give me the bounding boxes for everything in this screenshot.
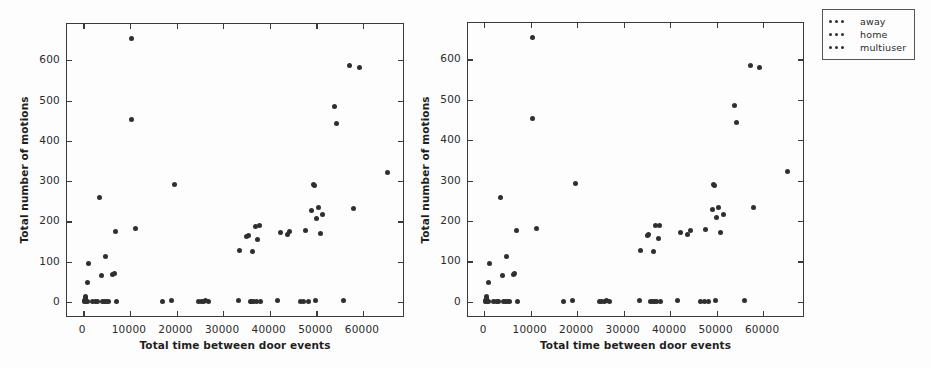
legend-item[interactable]: away <box>829 15 906 28</box>
x-axis-tick <box>83 24 84 29</box>
y-axis-tick <box>468 59 473 60</box>
scatter-point <box>734 120 739 125</box>
scatter-point <box>742 298 747 303</box>
y-axis-tick <box>468 221 473 222</box>
x-axis-tick <box>130 24 131 29</box>
y-axis-tick-label: 0 <box>433 295 461 307</box>
scatter-point <box>237 248 242 253</box>
scatter-point <box>507 299 512 304</box>
legend-marker-dot-icon <box>829 33 855 36</box>
y-axis-tick-label: 400 <box>32 134 60 146</box>
x-axis-tick <box>223 24 224 29</box>
x-axis-tick-label: 10000 <box>513 323 547 335</box>
scatter-point <box>714 215 719 220</box>
y-axis-tick-label: 100 <box>433 254 461 266</box>
scatter-point <box>106 299 111 304</box>
scatter-point <box>534 226 539 231</box>
y-axis-tick <box>468 100 473 101</box>
scatter-point <box>713 298 718 303</box>
scatter-point <box>332 104 337 109</box>
scatter-point <box>504 254 509 259</box>
scatter-point <box>255 237 260 242</box>
y-axis-tick <box>67 262 72 263</box>
x-axis-tick <box>624 23 625 28</box>
y-axis-tick-label: 600 <box>433 52 461 64</box>
scatter-point <box>515 299 520 304</box>
y-axis-tick <box>67 221 72 222</box>
legend: away home multiuser <box>822 9 915 60</box>
y-axis-tick <box>67 101 72 102</box>
x-axis-tick-label: 60000 <box>345 323 379 335</box>
scatter-point <box>341 298 346 303</box>
scatter-point <box>320 212 325 217</box>
scatter-point <box>160 299 165 304</box>
x-axis-title: Total time between door events <box>540 339 731 351</box>
x-axis-tick-label: 50000 <box>298 323 332 335</box>
x-axis-tick <box>531 23 532 28</box>
y-axis-tick <box>67 302 72 303</box>
plot-area-left <box>67 24 403 316</box>
scatter-point <box>316 205 321 210</box>
legend-label: home <box>860 29 888 40</box>
plot-area-right <box>468 23 803 316</box>
scatter-point <box>712 183 717 188</box>
legend-item[interactable]: multiuser <box>829 41 906 54</box>
x-axis-tick <box>363 24 364 29</box>
y-axis-tick <box>798 59 803 60</box>
scatter-point <box>86 261 91 266</box>
x-axis-tick <box>624 311 625 316</box>
scatter-point <box>657 223 662 228</box>
x-axis-tick-label: 20000 <box>559 323 593 335</box>
scatter-point <box>103 254 108 259</box>
scatter-point <box>785 169 790 174</box>
x-axis-tick <box>363 311 364 316</box>
x-axis-tick <box>270 311 271 316</box>
scatter-point <box>646 232 651 237</box>
x-axis-tick <box>717 311 718 316</box>
x-axis-tick <box>763 311 764 316</box>
x-axis-tick <box>763 23 764 28</box>
y-axis-tick-label: 100 <box>32 255 60 267</box>
y-axis-tick <box>398 302 403 303</box>
legend-label: multiuser <box>860 42 906 53</box>
scatter-point <box>561 299 566 304</box>
x-axis-tick <box>130 311 131 316</box>
scatter-point <box>306 299 311 304</box>
legend-item[interactable]: home <box>829 28 906 41</box>
scatter-point <box>688 228 693 233</box>
scatter-point <box>206 299 211 304</box>
scatter-point <box>530 35 535 40</box>
y-axis-tick <box>398 221 403 222</box>
x-axis-tick-label: 10000 <box>112 323 146 335</box>
scatter-point <box>703 227 708 232</box>
y-axis-tick <box>398 60 403 61</box>
x-axis-tick-label: 40000 <box>252 323 286 335</box>
scatter-point <box>258 299 263 304</box>
scatter-point <box>710 207 715 212</box>
x-axis-tick <box>177 24 178 29</box>
x-axis-tick <box>577 311 578 316</box>
scatter-point <box>112 271 117 276</box>
y-axis-tick-label: 300 <box>433 174 461 186</box>
y-axis-tick <box>398 181 403 182</box>
y-axis-tick-label: 300 <box>32 174 60 186</box>
y-axis-tick-label: 500 <box>32 94 60 106</box>
y-axis-tick <box>468 181 473 182</box>
x-axis-tick-label: 0 <box>79 323 86 335</box>
scatter-point <box>172 182 177 187</box>
y-axis-tick <box>798 140 803 141</box>
x-axis-tick-label: 30000 <box>606 323 640 335</box>
x-axis-tick-label: 0 <box>480 323 487 335</box>
x-axis-tick-label: 30000 <box>205 323 239 335</box>
scatter-point <box>313 298 318 303</box>
scatter-point <box>85 280 90 285</box>
y-axis-tick-label: 500 <box>433 93 461 105</box>
scatter-point <box>312 183 317 188</box>
plot-frame-right <box>467 22 804 317</box>
scatter-point <box>658 299 663 304</box>
scatter-point <box>748 63 753 68</box>
y-axis-tick-label: 0 <box>32 295 60 307</box>
scatter-point <box>706 299 711 304</box>
scatter-point <box>246 233 251 238</box>
y-axis-tick <box>67 60 72 61</box>
